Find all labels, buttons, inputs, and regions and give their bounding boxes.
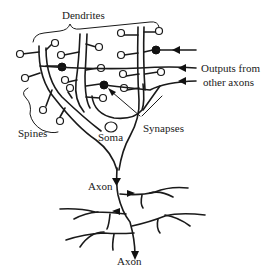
label-outputs-line1: Outputs from [201,63,260,74]
axon-arrow-right-upper [127,190,135,197]
axon-branch-right-lower-fork [165,215,190,226]
dendrite-right [119,27,139,170]
axon-branch-left-lower-fork [80,232,104,247]
axon-branch-right-upper-twig [141,195,143,208]
axon-arrow-left-upper [112,208,120,215]
axon-branch-left-lower-twig [113,234,114,250]
label-soma: Soma [98,132,123,143]
dendrite-middle [76,34,84,112]
axon-arrow-upper [112,178,121,186]
dendrite-right-2 [144,27,145,90]
label-axon-upper: Axon [88,181,112,192]
input-arrow-1 [172,46,180,54]
input-arrow-3 [178,77,186,85]
axon-branch-right-lower-twig [157,219,160,233]
axon-branch-right-upper-fork [150,192,173,197]
label-outputs-line2: other axons [203,77,254,88]
label-dendrites: Dendrites [62,10,105,21]
label-spines: Spines [18,128,47,139]
synapse-pointer-1 [112,92,140,116]
dendrites-bracket [33,22,159,42]
label-axon-lower: Axon [117,256,141,267]
axon-branch-left-upper-twig [107,214,110,229]
axon-branch-left-upper-fork [74,212,98,219]
label-synapses: Synapses [143,123,184,134]
axon-branch-left-lower [66,233,134,240]
input-arrow-2 [178,64,186,72]
